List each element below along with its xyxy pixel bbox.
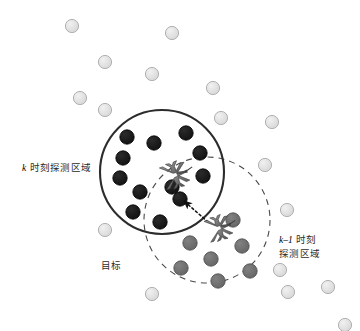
label-target: 目标 [101, 258, 122, 272]
k-detection-dot [147, 136, 161, 150]
k-detection-dot [173, 192, 187, 206]
motion-arrow [184, 201, 208, 222]
k-minus-1-detection-dot [183, 236, 197, 250]
aircraft-nose-probe [185, 167, 193, 172]
clutter-dot [281, 285, 294, 298]
clutter-dot [273, 263, 286, 276]
label-k-region-text: 时刻探测区域 [26, 162, 91, 173]
aircraft-silhouette-mirror [159, 159, 188, 181]
clutter-dot [98, 55, 111, 68]
clutter-dot [214, 111, 227, 124]
k-minus-1-detection-dot [235, 239, 249, 253]
figure-canvas: k 时刻探测区域 k–1 时刻 探测区域 目标 [0, 0, 360, 331]
k-detection-dot [133, 185, 147, 199]
k-minus-1-detection-dot [243, 264, 257, 278]
k-minus-1-detection-dot [211, 274, 225, 288]
clutter-dot [145, 67, 158, 80]
clutter-dot [321, 280, 334, 293]
k-detection-dot [179, 126, 193, 140]
k-detection-dot [153, 215, 167, 229]
clutter-dot [258, 158, 271, 171]
clutter-dot [280, 203, 293, 216]
k-minus-1-detection-dot [204, 252, 218, 266]
motion-arrow-line [184, 201, 208, 222]
k-minus-1-detection-dot [174, 261, 188, 275]
k-detection-dot [196, 169, 210, 183]
clutter-dot [98, 223, 111, 236]
clutter-dot [165, 26, 178, 39]
clutter-dot [98, 103, 111, 116]
clutter-dot [65, 19, 78, 32]
label-k-minus-1-line1: k–1 时刻 [279, 231, 320, 247]
label-k-region: k 时刻探测区域 [22, 159, 91, 175]
clutter-dot [338, 318, 351, 331]
clutter-dot [265, 115, 278, 128]
label-k-minus-1-symbol: k–1 [279, 235, 293, 245]
k-detection-dot-layer [113, 126, 210, 229]
k-detection-dot [113, 171, 127, 185]
k-detection-dot [126, 205, 140, 219]
clutter-dot [145, 287, 158, 300]
k-detection-dot [116, 151, 130, 165]
k-detection-dot [120, 130, 134, 144]
label-k-minus-1-line2: 探测区域 [279, 247, 320, 261]
k-detection-dot [193, 146, 207, 160]
label-k-minus-1-region: k–1 时刻 探测区域 [279, 231, 320, 261]
label-k-minus-1-time-text: 时刻 [293, 234, 317, 245]
clutter-dot [206, 81, 219, 94]
clutter-dot [73, 91, 86, 104]
